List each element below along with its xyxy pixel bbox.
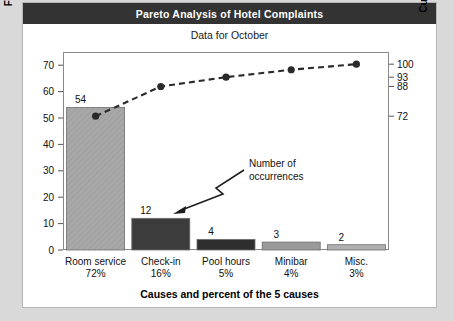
bar-rect: [132, 218, 190, 250]
x-tick-label-name: Check-in: [141, 256, 180, 267]
annotation-line-2: occurrences: [249, 171, 303, 182]
y-tick-label-left: 20: [43, 192, 55, 203]
x-tick-label-name: Misc.: [345, 256, 368, 267]
x-tick-label-percent: 16%: [151, 268, 171, 279]
screenshot-root: Pareto Analysis of Hotel Complaints Data…: [0, 0, 454, 321]
cumulative-marker-1: [92, 113, 99, 120]
bar-2: [132, 218, 190, 250]
y-tick-label-left: 30: [43, 165, 55, 176]
cumulative-marker-3: [222, 74, 229, 81]
bar-rect: [197, 239, 255, 250]
cumulative-polyline: [96, 64, 357, 116]
x-tick-label-percent: 5%: [219, 268, 234, 279]
y-axis-label-left: Frequency (number): [3, 0, 14, 43]
chart-card: Pareto Analysis of Hotel Complaints Data…: [22, 2, 437, 308]
y-tick-label-left: 50: [43, 113, 55, 124]
bar-rect: [262, 242, 320, 250]
x-tick-label-name: Pool hours: [202, 256, 250, 267]
x-tick-label-percent: 72%: [86, 268, 106, 279]
y-tick-label-left: 70: [43, 60, 55, 71]
bar-value-label: 3: [273, 229, 279, 240]
y-tick-label-left: 60: [43, 86, 55, 97]
pareto-chart: 54Room service72%12Check-in16%4Pool hour…: [23, 3, 436, 309]
bar-rect: [67, 107, 125, 250]
bar-rect: [327, 245, 385, 250]
bar-3: [197, 239, 255, 250]
cumulative-marker-2: [157, 83, 164, 90]
cumulative-line: [92, 61, 360, 120]
y-tick-label-left: 40: [43, 139, 55, 150]
bar-value-label: 54: [75, 94, 87, 105]
y-tick-label-left: 10: [43, 218, 55, 229]
y-tick-label-right: 100: [397, 59, 414, 70]
y-tick-label-right: 72: [397, 111, 409, 122]
x-tick-label-percent: 3%: [349, 268, 364, 279]
bar-5: [327, 245, 385, 250]
x-tick-label-name: Room service: [65, 256, 127, 267]
bar-value-label: 12: [140, 205, 152, 216]
bar-value-label: 4: [208, 226, 214, 237]
bar-value-label: 2: [339, 232, 345, 243]
bars-group: 54Room service72%12Check-in16%4Pool hour…: [65, 94, 385, 279]
x-tick-label-percent: 4%: [284, 268, 299, 279]
annotation-arrow-head: [173, 206, 186, 214]
y-tick-label-left: 0: [48, 245, 54, 256]
bar-4: [262, 242, 320, 250]
bar-1: [67, 107, 125, 250]
y-tick-label-right: 93: [397, 72, 409, 83]
annotation-group: Number ofoccurrences: [173, 158, 303, 214]
cumulative-marker-4: [288, 66, 295, 73]
cumulative-marker-5: [353, 61, 360, 68]
x-tick-label-name: Minibar: [275, 256, 308, 267]
annotation-arrow-line: [179, 170, 244, 211]
annotation-line-1: Number of: [249, 158, 296, 169]
